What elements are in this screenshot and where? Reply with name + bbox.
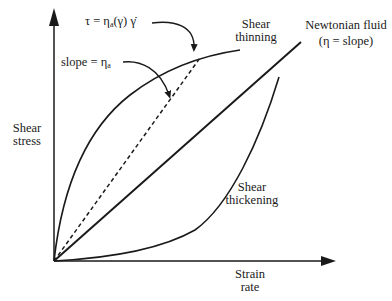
slope-label-lhs: slope = η (61, 55, 107, 69)
shear-thinning-label: Shear thinning (226, 18, 286, 44)
shear-thickening-label: Shear thickening (217, 181, 287, 207)
newtonian-label-line2: (η = slope) (296, 35, 392, 48)
slope-pointer-arrow (123, 62, 169, 95)
x-axis-arrow-icon (321, 256, 336, 266)
newtonian-line (54, 42, 301, 261)
y-axis-arrow-icon (49, 8, 59, 26)
slope-label: slope = ηa (61, 56, 111, 72)
shear-thickening-label-line2: thickening (217, 194, 287, 207)
tau-formula-label: τ = ηa(γ) γ̇ (85, 15, 136, 31)
shear-thinning-curve (54, 50, 240, 261)
newtonian-label-line1: Newtonian fluid (296, 19, 392, 32)
tau-pointer-arrow (152, 22, 194, 48)
y-axis-label: Shear stress (2, 122, 52, 148)
shear-thinning-label-line2: thinning (226, 31, 286, 44)
secant-dashed-line (54, 58, 200, 261)
x-axis-label-line2: rate (220, 281, 280, 294)
x-axis-label: Strain rate (220, 268, 280, 294)
tau-formula-rhs: (γ) γ̇ (113, 14, 136, 28)
slope-label-subscript: a (107, 61, 111, 70)
newtonian-label: Newtonian fluid (η = slope) (296, 19, 392, 48)
y-axis-label-line2: stress (2, 135, 52, 148)
tau-formula-lhs: τ = η (85, 14, 110, 28)
